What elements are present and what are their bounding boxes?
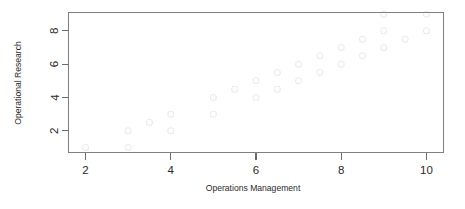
data-point: [423, 28, 429, 34]
data-point: [296, 61, 302, 67]
chart-canvas: 246810 2468 Operations Management Operat…: [0, 0, 465, 209]
data-point: [402, 36, 408, 42]
data-point: [360, 36, 366, 42]
y-axis-title: Operational Research: [13, 41, 23, 125]
data-point: [83, 145, 89, 151]
y-axis-tick-labels: 2468: [49, 28, 61, 134]
x-axis-ticks: [86, 153, 427, 160]
data-point: [296, 78, 302, 84]
data-points-layer: [83, 11, 430, 150]
x-axis-tick-labels: 246810: [82, 164, 433, 176]
data-point: [210, 95, 216, 101]
x-tick-label: 8: [338, 164, 344, 176]
y-tick-label: 6: [49, 61, 61, 67]
x-tick-label: 4: [168, 164, 175, 176]
x-axis-title: Operations Management: [206, 183, 301, 193]
data-point: [125, 145, 131, 151]
data-point: [253, 95, 259, 101]
x-tick-label: 2: [82, 164, 88, 176]
data-point: [168, 128, 174, 134]
x-tick-label: 6: [253, 164, 259, 176]
data-point: [232, 86, 238, 92]
data-point: [360, 53, 366, 59]
y-axis-ticks: [62, 31, 69, 131]
data-point: [274, 86, 280, 92]
data-point: [338, 61, 344, 67]
data-point: [274, 70, 280, 76]
scatter-plot-figure: 246810 2468 Operations Management Operat…: [0, 0, 465, 209]
data-point: [253, 78, 259, 84]
data-point: [146, 120, 152, 126]
data-point: [338, 45, 344, 51]
data-point: [381, 45, 387, 51]
data-point: [125, 128, 131, 134]
y-tick-label: 8: [49, 28, 61, 34]
data-point: [168, 111, 174, 117]
y-tick-label: 2: [49, 128, 61, 134]
data-point: [317, 70, 323, 76]
x-tick-label: 10: [420, 164, 433, 176]
data-point: [317, 53, 323, 59]
data-point: [381, 28, 387, 34]
y-tick-label: 4: [49, 94, 61, 101]
data-point: [210, 111, 216, 117]
